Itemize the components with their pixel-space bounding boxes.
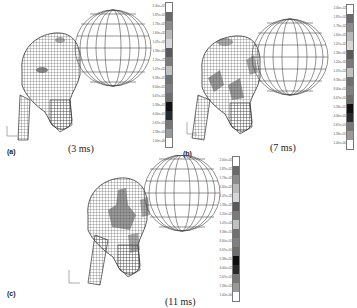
legend-tick-label: 1.20e+02 [333,61,346,64]
legend-tick-label: 9.33e+01 [152,77,165,80]
legend-tick-label: 8.00e+01 [219,240,232,243]
axis-triad-icon [7,126,17,136]
legend-tick-label: 1.20e+02 [152,59,165,62]
legend-tick-label: 2.00e+02 [333,7,346,10]
impactor-sphere [75,10,151,86]
legend-tick-label: 1.87e+02 [152,14,165,17]
legend-tick-label: 1.07e+02 [219,222,232,225]
legend-swatch [347,77,353,86]
legend-c: 2.00e+021.87e+021.73e+021.60e+021.47e+02… [210,156,240,302]
legend-tick-label: 1.33e+01 [219,285,232,288]
legend-tick-label: 5.33e+01 [333,106,346,109]
legend-tick-label: 1.33e+02 [333,52,346,55]
legend-swatch [166,111,172,120]
legend-swatch [166,3,172,12]
legend-swatch [347,140,353,149]
legend-swatch [233,184,239,193]
legend-tick-label: 1.33e+01 [152,131,165,134]
legend-swatch [347,50,353,59]
legend-tick-label: 1.07e+02 [152,68,165,71]
legend-swatch [347,41,353,50]
legend-swatch [233,238,239,247]
legend-a: 2.00e+021.87e+021.73e+021.60e+021.47e+02… [143,2,173,148]
legend-tick-label: 2.67e+01 [152,122,165,125]
legend-swatch [233,220,239,229]
legend-tick-label: 1.33e+02 [219,204,232,207]
legend-swatch [233,202,239,211]
legend-swatch [166,21,172,30]
impactor-sphere [144,155,220,231]
legend-tick-label: 1.00e+00 [152,140,165,143]
legend-swatch [233,292,239,301]
legend-tick-label: 1.73e+02 [152,23,165,26]
impactor-sphere [252,19,328,95]
legend-tick-label: 2.00e+02 [152,5,165,8]
legend-swatch [166,84,172,93]
legend-swatch [347,32,353,41]
panel-b: 2.00e+021.87e+021.73e+021.60e+021.47e+02… [180,0,357,160]
legend-tick-label: 1.00e+00 [333,142,346,145]
legend-tick-label: 1.87e+02 [219,168,232,171]
legend-colorbar [232,156,240,302]
legend-swatch [166,120,172,129]
legend-swatch [166,12,172,21]
legend-tick-label: 4.00e+01 [219,267,232,270]
legend-tick-label: 6.67e+01 [219,249,232,252]
legend-tick-label: 8.00e+01 [333,88,346,91]
panel-caption-c: (11 ms) [165,296,195,307]
legend-swatch [233,283,239,292]
legend-tick-label: 1.87e+02 [333,16,346,19]
legend-tick-label: 1.00e+00 [219,294,232,297]
legend-tick-label: 2.00e+02 [219,159,232,162]
legend-swatch [233,265,239,274]
legend-tick-label: 4.00e+01 [152,113,165,116]
skull-mesh-icon [0,155,357,308]
legend-tick-label: 1.47e+02 [152,41,165,44]
legend-swatch [166,30,172,39]
legend-tick-label: 1.60e+02 [333,34,346,37]
legend-swatch [166,129,172,138]
legend-tick-label: 9.33e+01 [333,79,346,82]
legend-swatch [233,157,239,166]
legend-tick-label: 1.73e+02 [333,25,346,28]
legend-b: 2.00e+021.87e+021.73e+021.60e+021.47e+02… [324,4,354,150]
legend-tick-label: 1.33e+02 [152,50,165,53]
legend-tick-label: 1.07e+02 [333,70,346,73]
panel-label-c: (c) [7,290,16,297]
legend-tick-label: 1.47e+02 [333,43,346,46]
legend-colorbar [165,2,173,148]
legend-tick-label: 5.33e+01 [152,104,165,107]
legend-tick-label: 1.60e+02 [152,32,165,35]
legend-swatch [233,211,239,220]
legend-swatch [233,274,239,283]
legend-tick-label: 1.33e+01 [333,133,346,136]
legend-swatch [347,59,353,68]
panel-a: 2.00e+021.87e+021.73e+021.60e+021.47e+02… [0,0,178,160]
legend-tick-label: 5.33e+01 [219,258,232,261]
legend-swatch [233,175,239,184]
legend-swatch [347,14,353,23]
legend-tick-label: 8.00e+01 [152,86,165,89]
axis-triad-icon [69,270,80,283]
legend-swatch [347,86,353,95]
legend-swatch [166,39,172,48]
legend-tick-label: 4.00e+01 [333,115,346,118]
legend-swatch [347,5,353,14]
legend-swatch [347,122,353,131]
legend-tick-label: 1.60e+02 [219,186,232,189]
legend-tick-label: 1.20e+02 [219,213,232,216]
legend-tick-label: 2.67e+01 [333,124,346,127]
legend-swatch [233,166,239,175]
legend-tick-label: 6.67e+01 [152,95,165,98]
legend-tick-label: 6.67e+01 [333,97,346,100]
panel-caption-b: (7 ms) [270,142,296,153]
legend-swatch [233,256,239,265]
legend-swatch [347,23,353,32]
legend-swatch [347,95,353,104]
legend-swatch [166,66,172,75]
legend-swatch [166,48,172,57]
legend-swatch [166,57,172,66]
legend-swatch [233,247,239,256]
legend-swatch [166,93,172,102]
legend-swatch [166,138,172,147]
